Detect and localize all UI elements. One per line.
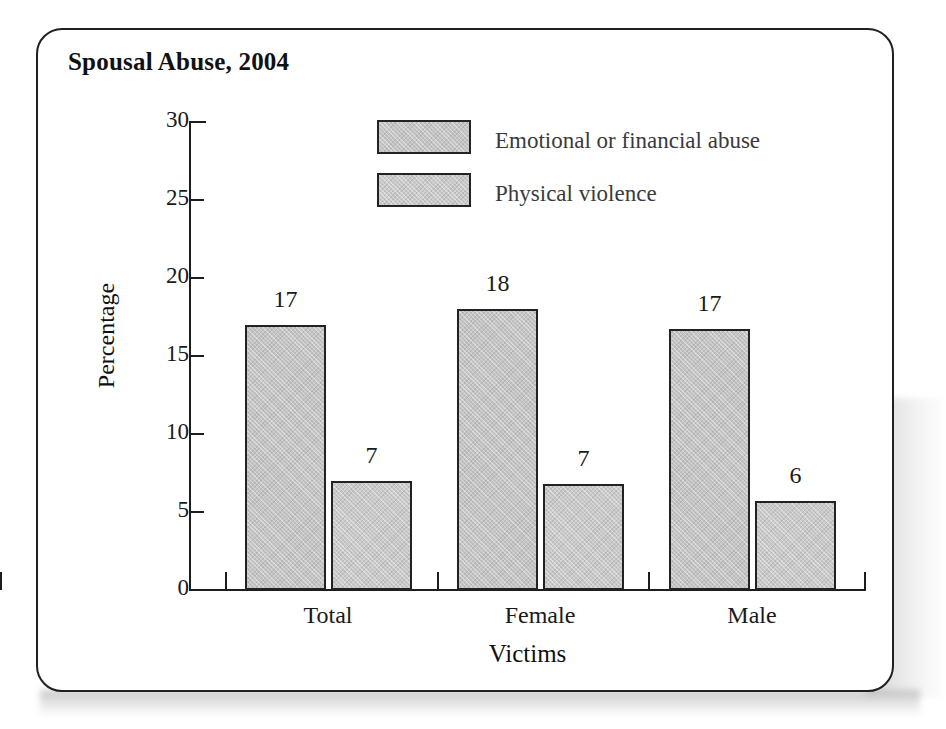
figure-card bbox=[36, 28, 894, 692]
chart-title: Spousal Abuse, 2004 bbox=[68, 48, 289, 76]
x-tick-2 bbox=[0, 572, 2, 590]
page-edge-shadow-bottom bbox=[40, 690, 920, 716]
